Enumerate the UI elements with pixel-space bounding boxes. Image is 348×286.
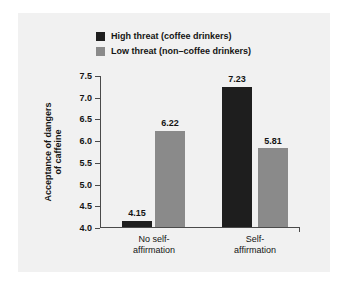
x-group-1-line-1: No self-	[138, 234, 169, 244]
bar-no-self-affirmation-low-threat	[155, 131, 185, 227]
y-axis-title: Acceptance of dangers of caffeine	[44, 76, 62, 228]
y-tick-label-6-5: 6.5	[79, 114, 92, 124]
legend-entry-high-threat: High threat (coffee drinkers)	[96, 29, 296, 43]
y-tick-label-7-0: 7.0	[79, 93, 92, 103]
y-tick-label-4-0: 4.0	[79, 223, 92, 233]
bar-value-self-affirmation-high-threat: 7.23	[228, 74, 246, 84]
y-axis-line	[100, 76, 101, 228]
legend-entry-low-threat: Low threat (non–coffee drinkers)	[96, 44, 296, 58]
y-tick-label-6-0: 6.0	[79, 136, 92, 146]
x-group-2-line-2: affirmation	[234, 245, 276, 255]
plot-area: 7.5 7.0 6.5 6.0 5.5 5.0 4.5 4.0 4.15 6.2…	[100, 76, 300, 228]
y-tick-label-4-5: 4.5	[79, 201, 92, 211]
y-tick-label-5-0: 5.0	[79, 180, 92, 190]
y-tick-label-7-5: 7.5	[79, 71, 92, 81]
y-tick-mark-4-0	[95, 228, 100, 229]
chart-legend: High threat (coffee drinkers) Low threat…	[96, 29, 296, 59]
x-group-2-line-1: Self-	[246, 234, 265, 244]
y-axis-title-line-1: Acceptance of dangers	[43, 102, 53, 201]
x-axis-group-label-self-affirmation: Self- affirmation	[234, 234, 276, 256]
x-axis-group-label-no-self-affirmation: No self- affirmation	[133, 234, 175, 256]
x-axis-end-tick	[299, 227, 300, 232]
y-tick-mark-7-0	[95, 98, 100, 99]
bar-value-no-self-affirmation-high-threat: 4.15	[128, 208, 146, 218]
y-axis-title-line-2: of caffeine	[53, 130, 63, 175]
y-tick-mark-5-5	[95, 163, 100, 164]
legend-swatch-low-threat	[96, 47, 105, 56]
bar-value-self-affirmation-low-threat: 5.81	[264, 136, 282, 146]
x-axis-line	[100, 227, 300, 228]
bar-value-no-self-affirmation-low-threat: 6.22	[161, 118, 179, 128]
chart-figure: High threat (coffee drinkers) Low threat…	[0, 0, 348, 286]
y-tick-mark-6-5	[95, 119, 100, 120]
bar-self-affirmation-low-threat	[258, 148, 288, 227]
legend-swatch-high-threat	[96, 32, 105, 41]
y-axis-title-text: Acceptance of dangers of caffeine	[43, 102, 63, 201]
bar-self-affirmation-high-threat	[222, 87, 252, 227]
bar-no-self-affirmation-high-threat	[122, 221, 152, 228]
y-tick-label-5-5: 5.5	[79, 158, 92, 168]
x-group-1-line-2: affirmation	[133, 245, 175, 255]
y-tick-mark-5-0	[95, 185, 100, 186]
legend-label-high-threat: High threat (coffee drinkers)	[111, 31, 232, 41]
y-tick-mark-7-5	[95, 76, 100, 77]
y-tick-mark-4-5	[95, 206, 100, 207]
y-tick-mark-6-0	[95, 141, 100, 142]
legend-label-low-threat: Low threat (non–coffee drinkers)	[111, 46, 251, 56]
